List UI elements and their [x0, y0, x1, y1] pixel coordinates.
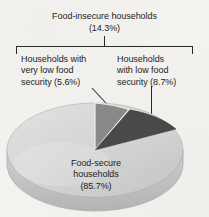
chart-title-line1: Food-insecure households	[0, 11, 209, 22]
pie-graphic	[0, 92, 209, 217]
bracket-tick-left	[16, 46, 17, 54]
chart-title-percent: (14.3%)	[0, 23, 209, 34]
pie-chart-figure: Food-insecure households (14.3%) Househo…	[0, 0, 209, 217]
bracket-horizontal-bar	[16, 46, 193, 47]
label-food-secure: Food-secure households (85.7%)	[34, 158, 158, 192]
label-low-food-security: Households with low food security (8.7%)	[117, 54, 197, 88]
label-very-low-food-security: Households with very low food security (…	[21, 54, 107, 88]
bracket-tick-right	[192, 46, 193, 54]
